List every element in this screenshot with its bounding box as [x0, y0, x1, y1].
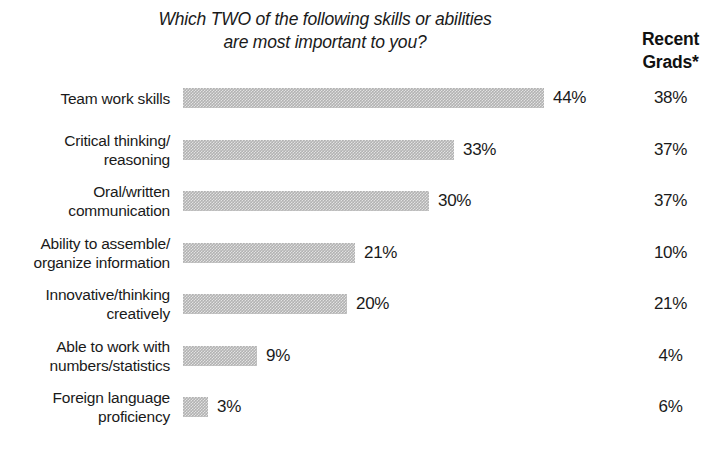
- recent-grads-value: 6%: [618, 396, 723, 418]
- category-label: Critical thinking/reasoning: [0, 130, 170, 170]
- bar-value-label: 9%: [266, 345, 290, 367]
- chart-row: Foreign languageproficiency3%6%: [0, 387, 725, 427]
- bar: [183, 243, 355, 263]
- recent-grads-value: 4%: [618, 345, 723, 367]
- chart-row: Oral/writtencommunication30%37%: [0, 181, 725, 221]
- category-label-line: communication: [68, 201, 170, 220]
- recent-grads-value: 21%: [618, 293, 723, 315]
- recent-grads-value: 37%: [618, 190, 723, 212]
- category-label-line: creatively: [107, 304, 170, 323]
- chart-row: Able to work withnumbers/statistics9%4%: [0, 336, 725, 376]
- bar: [183, 346, 257, 366]
- category-label-line: organize information: [34, 253, 170, 272]
- bar-fill: [183, 346, 257, 366]
- category-label: Innovative/thinkingcreatively: [0, 284, 170, 324]
- chart-row: Ability to assemble/organize information…: [0, 233, 725, 273]
- category-label-line: Team work skills: [60, 89, 170, 108]
- bar-value-label: 33%: [463, 139, 496, 161]
- recent-grads-value: 37%: [618, 139, 723, 161]
- category-label-line: Able to work with: [56, 337, 170, 356]
- category-label-line: reasoning: [104, 150, 170, 169]
- category-label: Team work skills: [0, 78, 170, 118]
- bar-fill: [183, 294, 347, 314]
- category-label-line: Ability to assemble/: [40, 234, 170, 253]
- bar-fill: [183, 88, 544, 108]
- bar-value-label: 3%: [217, 396, 241, 418]
- category-label: Able to work withnumbers/statistics: [0, 336, 170, 376]
- bar-value-label: 21%: [364, 242, 397, 264]
- bar: [183, 191, 429, 211]
- category-label-line: proficiency: [98, 407, 170, 426]
- category-label: Foreign languageproficiency: [0, 387, 170, 427]
- bar-value-label: 20%: [356, 293, 389, 315]
- category-label-line: Innovative/thinking: [45, 285, 170, 304]
- chart-rows: Team work skills44%38%Critical thinking/…: [0, 0, 725, 452]
- chart-row: Team work skills44%38%: [0, 78, 725, 118]
- category-label: Ability to assemble/organize information: [0, 233, 170, 273]
- category-label-line: Foreign language: [53, 388, 170, 407]
- bar-fill: [183, 397, 208, 417]
- category-label: Oral/writtencommunication: [0, 181, 170, 221]
- bar-value-label: 30%: [438, 190, 471, 212]
- category-label-line: Oral/written: [93, 182, 170, 201]
- bar-fill: [183, 191, 429, 211]
- category-label-line: Critical thinking/: [64, 131, 170, 150]
- bar-fill: [183, 243, 355, 263]
- chart-row: Critical thinking/reasoning33%37%: [0, 130, 725, 170]
- recent-grads-value: 10%: [618, 242, 723, 264]
- bar: [183, 397, 208, 417]
- bar-fill: [183, 140, 454, 160]
- bar: [183, 294, 347, 314]
- bar: [183, 140, 454, 160]
- chart-row: Innovative/thinkingcreatively20%21%: [0, 284, 725, 324]
- bar: [183, 88, 544, 108]
- category-label-line: numbers/statistics: [50, 356, 170, 375]
- bar-value-label: 44%: [553, 87, 586, 109]
- recent-grads-value: 38%: [618, 87, 723, 109]
- survey-bar-chart: Which TWO of the following skills or abi…: [0, 0, 725, 452]
